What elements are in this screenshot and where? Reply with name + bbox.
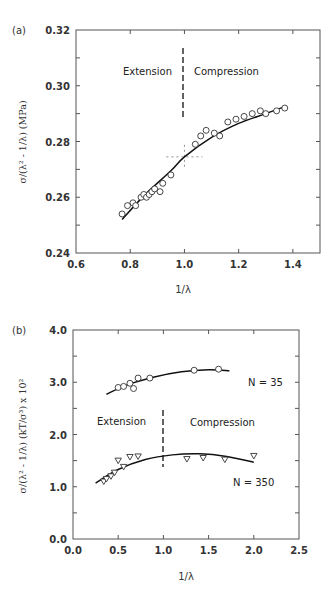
data-point-triangle: [115, 458, 121, 464]
data-point-circle: [263, 111, 269, 117]
panel-b-compression-label: Compression: [190, 417, 255, 428]
panel-a: (a) 0.60.81.01.21.40.240.260.280.300.32 …: [12, 25, 320, 295]
data-point-circle: [131, 386, 137, 392]
x-tick-label: 1.5: [200, 545, 218, 556]
data-point-circle: [216, 366, 222, 372]
y-tick-label: 0.32: [45, 25, 70, 36]
panel-a-label: (a): [12, 25, 26, 36]
data-point-triangle: [200, 456, 206, 462]
panel-b-label: (b): [12, 325, 26, 336]
figure: (a) 0.60.81.01.21.40.240.260.280.300.32 …: [0, 0, 327, 590]
data-point-triangle: [135, 454, 141, 460]
data-point-circle: [133, 203, 139, 209]
data-point-circle: [217, 133, 223, 139]
panel-a-y-axis-label: σ/(λ² - 1/λ) (MPa): [17, 100, 28, 183]
fit-curve: [106, 370, 229, 395]
panel-b-n350-label: N = 350: [233, 477, 274, 488]
y-tick-label: 1.0: [49, 482, 67, 493]
panel-a-tick-labels: 0.60.81.01.21.40.240.260.280.300.32: [45, 25, 301, 270]
data-point-circle: [203, 127, 209, 133]
x-tick-label: 1.2: [230, 259, 248, 270]
x-tick-label: 2.5: [290, 545, 308, 556]
y-tick-label: 0.30: [45, 81, 70, 92]
x-tick-label: 1.4: [284, 259, 302, 270]
data-point-circle: [274, 108, 280, 114]
x-tick-label: 2.0: [245, 545, 263, 556]
panel-a-frame: [76, 30, 320, 253]
panel-a-compression-label: Compression: [194, 66, 259, 77]
data-point-circle: [135, 375, 141, 381]
x-tick-label: 0.0: [64, 545, 82, 556]
panel-b-ticks: [73, 330, 299, 539]
y-tick-label: 0.24: [45, 248, 70, 259]
data-point-triangle: [222, 457, 228, 463]
y-tick-label: 0.0: [49, 534, 67, 545]
y-tick-label: 3.0: [49, 377, 67, 388]
data-point-circle: [198, 133, 204, 139]
panel-a-extension-label: Extension: [123, 66, 172, 77]
y-tick-label: 0.28: [45, 137, 70, 148]
panel-a-fit-curve: [122, 107, 285, 220]
x-tick-label: 1.0: [155, 545, 173, 556]
data-point-circle: [233, 116, 239, 122]
x-tick-label: 0.5: [109, 545, 127, 556]
data-point-circle: [191, 367, 197, 373]
data-point-circle: [168, 172, 174, 178]
data-point-circle: [241, 113, 247, 119]
data-point-circle: [119, 211, 125, 217]
data-point-circle: [225, 119, 231, 125]
y-tick-label: 4.0: [49, 325, 67, 336]
panel-b: (b) 0.00.51.01.52.02.50.01.02.03.04.0 1/…: [12, 325, 308, 582]
panel-a-data-points: [119, 105, 288, 217]
x-tick-label: 0.8: [121, 259, 139, 270]
fit-curve: [122, 107, 285, 220]
panel-b-n35-label: N = 35: [248, 377, 283, 388]
data-point-circle: [157, 189, 163, 195]
panel-b-extension-label: Extension: [97, 416, 146, 427]
data-point-triangle: [120, 464, 126, 470]
panel-b-y-axis-label: σ/(λ² - 1/λ) (kT/σ³) x 10²: [17, 378, 28, 493]
data-point-circle: [147, 375, 153, 381]
panel-a-ticks: [76, 30, 320, 253]
panel-b-tick-labels: 0.00.51.01.52.02.50.01.02.03.04.0: [49, 325, 308, 556]
x-tick-label: 1.0: [176, 259, 194, 270]
y-tick-label: 2.0: [49, 430, 67, 441]
panel-b-x-axis-label: 1/λ: [178, 571, 194, 582]
data-point-circle: [121, 383, 127, 389]
panel-b-frame: [73, 330, 299, 539]
data-point-circle: [127, 380, 133, 386]
data-point-circle: [192, 141, 198, 147]
data-point-triangle: [127, 454, 133, 460]
data-point-circle: [160, 180, 166, 186]
x-tick-label: 0.6: [67, 259, 85, 270]
data-point-triangle: [251, 453, 257, 459]
data-point-triangle: [184, 457, 190, 463]
data-point-circle: [282, 105, 288, 111]
data-point-circle: [249, 111, 255, 117]
y-tick-label: 0.26: [45, 192, 70, 203]
data-point-circle: [115, 384, 121, 390]
panel-a-x-axis-label: 1/λ: [175, 284, 191, 295]
